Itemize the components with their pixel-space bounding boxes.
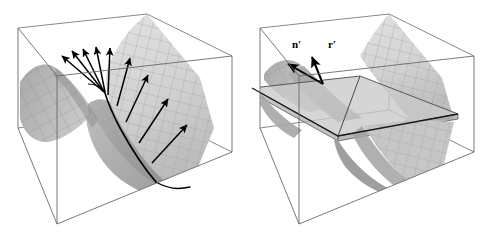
right-panel-svg: n′ r′: [242, 0, 485, 237]
principal-direction-curve-2: [156, 182, 190, 188]
panel-right-saddle-tangent-plane: n′ r′: [242, 0, 485, 237]
left-panel-svg: [0, 0, 243, 237]
label-n-prime: n′: [292, 38, 301, 50]
panel-left-saddle-normals: [0, 0, 243, 237]
figure-container: n′ r′: [0, 0, 485, 237]
label-r-prime: r′: [328, 38, 336, 50]
